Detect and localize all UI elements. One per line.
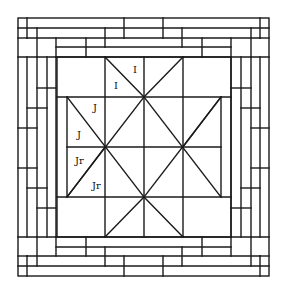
label-i-2: I	[114, 80, 118, 91]
label-i-1: I	[133, 64, 137, 75]
label-jr-1: Jr	[74, 155, 84, 166]
top-border	[18, 18, 269, 57]
label-jr-2: Jr	[91, 180, 101, 191]
label-j-2: J	[76, 129, 81, 140]
label-j-1: J	[92, 102, 97, 113]
bottom-border	[18, 237, 269, 276]
center-block	[57, 57, 231, 237]
quilt-diagram: I I J J Jr Jr	[0, 0, 288, 295]
right-border	[231, 57, 269, 237]
left-border	[18, 57, 56, 237]
